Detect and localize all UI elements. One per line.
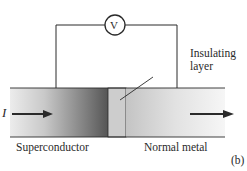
panel-label: (b)	[231, 154, 244, 166]
insulating-label-line1: Insulating	[190, 47, 236, 59]
normal-metal-region	[126, 88, 225, 137]
current-label: I	[2, 107, 6, 119]
normal-metal-label: Normal metal	[144, 141, 208, 153]
insulating-layer	[108, 88, 126, 137]
insulating-label-line2: layer	[190, 60, 213, 72]
superconductor-label: Superconductor	[16, 141, 89, 153]
superconductor-region	[10, 88, 108, 137]
voltmeter-label: V	[110, 19, 118, 31]
